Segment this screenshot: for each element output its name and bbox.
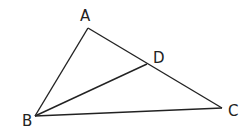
label-a: A	[80, 9, 90, 24]
triangle-diagram: A D B C	[0, 0, 249, 138]
segment-bd	[35, 64, 147, 116]
segment-ac	[88, 28, 222, 108]
label-d: D	[153, 51, 165, 66]
segment-bc	[35, 108, 222, 116]
segment-ab	[35, 28, 88, 116]
diagram-lines	[0, 0, 249, 138]
label-b: B	[22, 114, 32, 129]
label-c: C	[228, 104, 238, 119]
